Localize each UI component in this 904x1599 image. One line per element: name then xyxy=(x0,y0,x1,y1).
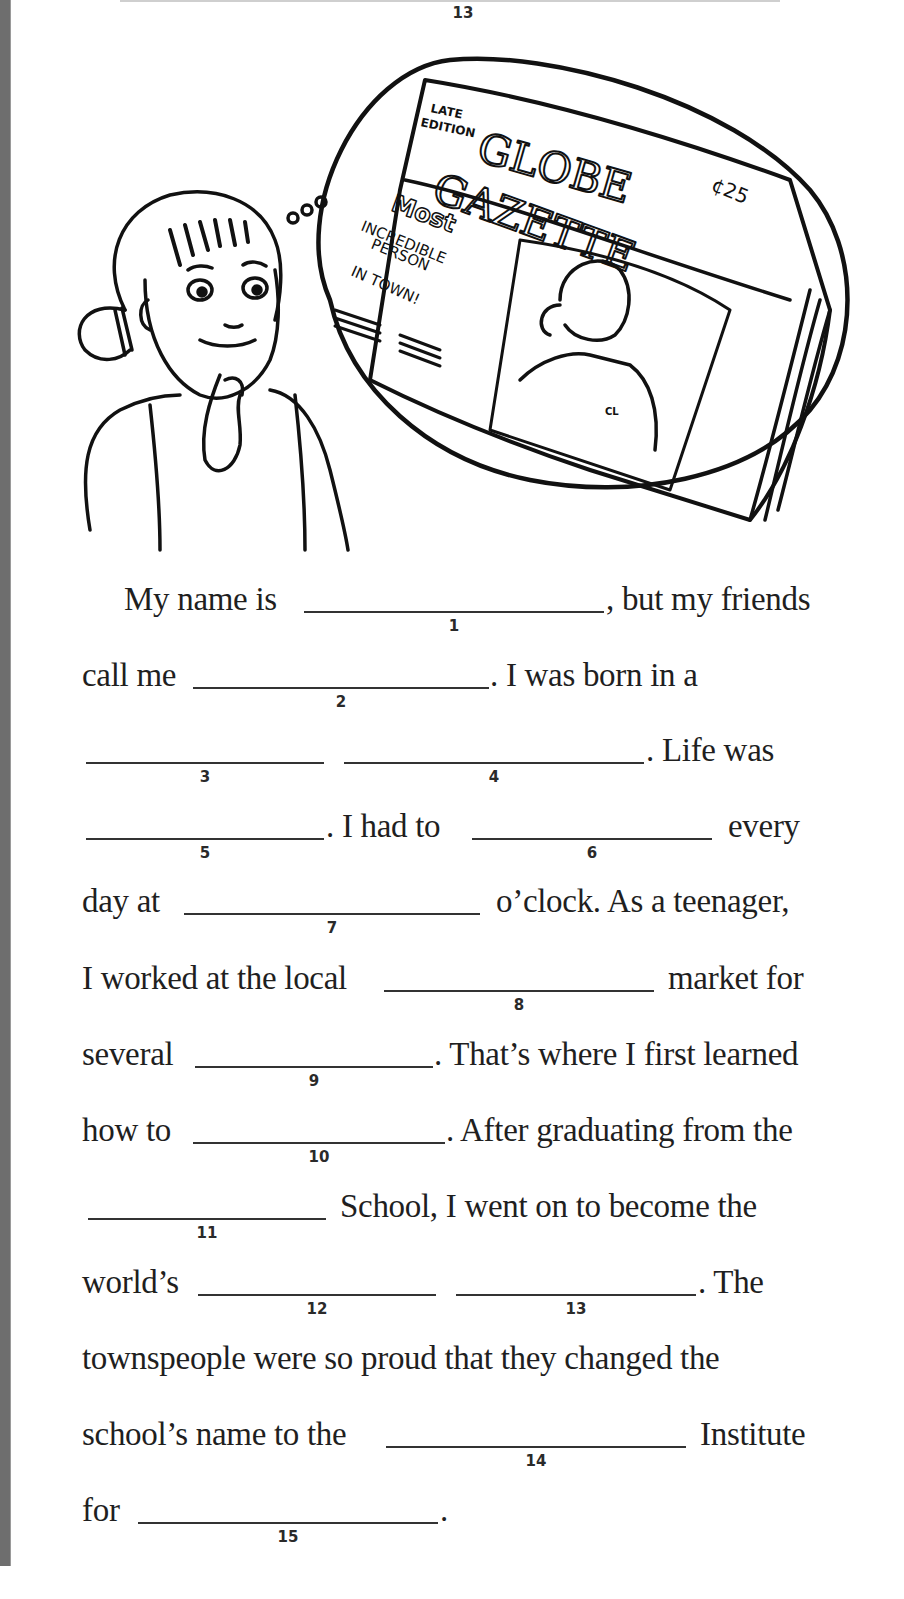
blank-number: 13 xyxy=(456,1300,696,1318)
svg-text:CL: CL xyxy=(605,406,619,417)
story-text-segment: townspeople were so proud that they chan… xyxy=(82,1338,719,1378)
previous-blank-line xyxy=(120,0,780,2)
blank-number: 9 xyxy=(195,1072,433,1090)
story-text-segment: call me xyxy=(82,655,176,695)
story-line: day at7o’clock. As a teenager, xyxy=(0,879,904,919)
story-text-segment: world’s xyxy=(82,1262,179,1302)
story-line: world’s1213. The xyxy=(0,1260,904,1300)
blank-number: 8 xyxy=(384,996,654,1014)
story-line: 5. I had to6every xyxy=(0,804,904,844)
story-text-segment: , but my friends xyxy=(606,579,810,619)
blank-number: 12 xyxy=(198,1300,436,1318)
blank-number: 6 xyxy=(472,844,712,862)
fill-in-blank-2[interactable]: 2 xyxy=(193,687,489,689)
story-line: 34. Life was xyxy=(0,728,904,768)
story-text-segment: Institute xyxy=(700,1414,805,1454)
girl-newspaper-illustration: LATE EDITION GLOBE GAZETTE ¢25 Most INCR… xyxy=(30,50,860,570)
svg-text:¢25: ¢25 xyxy=(708,172,752,209)
blank-number: 4 xyxy=(344,768,644,786)
story-text-segment: . I had to xyxy=(326,806,440,846)
story-text-segment: how to xyxy=(82,1110,171,1150)
story-text-segment: school’s name to the xyxy=(82,1414,346,1454)
fill-in-blank-13[interactable]: 13 xyxy=(456,1294,696,1296)
story-text-segment: School, I went on to become the xyxy=(340,1186,757,1226)
story-line: townspeople were so proud that they chan… xyxy=(0,1336,904,1376)
story-line: how to10. After graduating from the xyxy=(0,1108,904,1148)
story-text-segment: . I was born in a xyxy=(490,655,698,695)
fill-in-blank-4[interactable]: 4 xyxy=(344,762,644,764)
fill-in-blank-9[interactable]: 9 xyxy=(195,1066,433,1068)
thought-bubble xyxy=(318,59,847,488)
fill-in-blank-7[interactable]: 7 xyxy=(184,913,480,915)
fill-in-blank-5[interactable]: 5 xyxy=(86,838,324,840)
story-text-segment: . After graduating from the xyxy=(446,1110,793,1150)
blank-number: 14 xyxy=(386,1452,686,1470)
blank-number: 15 xyxy=(138,1528,438,1546)
story-line: call me2. I was born in a xyxy=(0,653,904,693)
fill-in-blank-10[interactable]: 10 xyxy=(193,1142,445,1144)
story-text-segment: My name is xyxy=(124,579,277,619)
story-line: My name is1, but my friends xyxy=(0,577,904,617)
blank-number: 10 xyxy=(193,1148,445,1166)
story-line: 11School, I went on to become the xyxy=(0,1184,904,1224)
story-line: school’s name to the14Institute xyxy=(0,1412,904,1452)
fill-in-blank-8[interactable]: 8 xyxy=(384,990,654,992)
blank-number: 2 xyxy=(193,693,489,711)
story-line: for15. xyxy=(0,1488,904,1528)
story-text-segment: . That’s where I first learned xyxy=(434,1034,798,1074)
fill-in-blank-3[interactable]: 3 xyxy=(86,762,324,764)
story-text-segment: day at xyxy=(82,881,160,921)
story-text-segment: for xyxy=(82,1490,120,1530)
fill-in-blank-15[interactable]: 15 xyxy=(138,1522,438,1524)
fill-in-blank-1[interactable]: 1 xyxy=(304,611,604,613)
story-text-segment: . xyxy=(440,1490,448,1530)
blank-number: 1 xyxy=(304,617,604,635)
previous-blank-number: 13 xyxy=(448,4,478,22)
story-line: I worked at the local8market for xyxy=(0,956,904,996)
story-text-segment: several xyxy=(82,1034,173,1074)
svg-text:EDITION: EDITION xyxy=(419,115,476,140)
fill-in-blank-12[interactable]: 12 xyxy=(198,1294,436,1296)
fill-in-blank-11[interactable]: 11 xyxy=(88,1218,326,1220)
story-text-segment: . Life was xyxy=(646,730,774,770)
fill-in-blank-6[interactable]: 6 xyxy=(472,838,712,840)
blank-number: 5 xyxy=(86,844,324,862)
blank-number: 3 xyxy=(86,768,324,786)
story-line: several9. That’s where I first learned xyxy=(0,1032,904,1072)
girl-figure xyxy=(79,192,348,550)
page-edge-bar xyxy=(0,0,11,1566)
story-text-segment: market for xyxy=(668,958,803,998)
blank-number: 7 xyxy=(184,919,480,937)
blank-number: 11 xyxy=(88,1224,326,1242)
story-text-segment: . The xyxy=(698,1262,764,1302)
story-text-segment: o’clock. As a teenager, xyxy=(496,881,789,921)
story-text-segment: I worked at the local xyxy=(82,958,347,998)
fill-in-blank-14[interactable]: 14 xyxy=(386,1446,686,1448)
story-text-segment: every xyxy=(728,806,800,846)
